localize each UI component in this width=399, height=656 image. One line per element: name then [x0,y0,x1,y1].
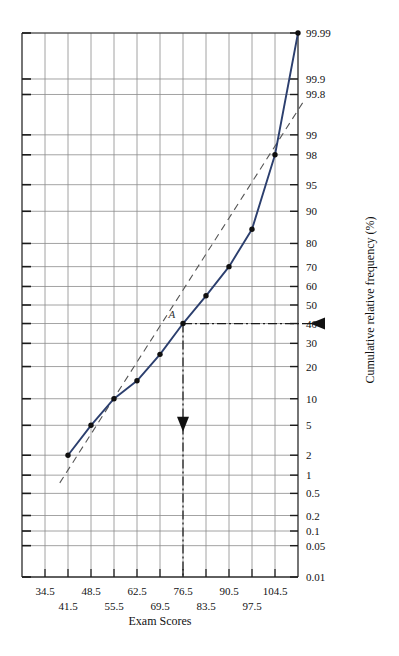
x-tick-label: 34.5 [35,585,55,597]
y-tick-label: 99.8 [306,88,326,100]
y-tick-label: 20 [306,361,318,373]
data-point-marker [203,293,208,298]
x-tick-label: 62.5 [127,585,147,597]
y-tick-label: 2 [306,449,312,461]
x-tick-label: 69.5 [150,600,170,612]
data-point-marker [157,352,162,357]
y-tick-label: 0.05 [306,540,326,552]
y-tick-label: 98 [306,149,318,161]
figure-background [0,0,399,656]
normal-probability-plot: 99.9999.999.8999895908070605040302010521… [0,0,399,656]
y-tick-label: 99.9 [306,73,326,85]
x-tick-label: 41.5 [58,600,78,612]
annotation-label-a: A [168,308,176,320]
y-tick-label: 0.5 [306,487,320,499]
data-point-marker [272,152,277,157]
x-tick-label: 48.5 [81,585,101,597]
y-tick-label: 60 [306,280,318,292]
x-tick-label: 83.5 [196,600,216,612]
data-point-marker [226,264,231,269]
data-point-marker [88,423,93,428]
y-tick-label: 0.2 [306,510,320,522]
y-tick-label: 0.01 [306,571,325,583]
x-tick-label: 97.5 [242,600,262,612]
y-tick-label: 80 [306,237,318,249]
data-point-marker [295,30,300,35]
y-tick-label: 50 [306,299,318,311]
y-tick-label: 10 [306,393,318,405]
data-point-marker [180,321,185,326]
y-tick-label: 90 [306,205,318,217]
y-tick-label: 99.99 [306,27,331,39]
data-point-marker [111,396,116,401]
y-tick-label: 95 [306,179,318,191]
y-axis-title: Cumulative relative frequency (%) [363,217,377,384]
y-tick-label: 0.1 [306,525,320,537]
x-tick-label: 90.5 [219,585,239,597]
y-tick-label: 5 [306,419,312,431]
y-tick-label: 30 [306,337,318,349]
x-tick-label: 76.5 [173,585,193,597]
x-tick-label: 104.5 [263,585,288,597]
annotation-labels: A [168,308,176,320]
data-point-marker [249,226,254,231]
x-tick-label: 55.5 [104,600,124,612]
data-point-marker [65,453,70,458]
probability-plot-figure: 99.9999.999.8999895908070605040302010521… [0,0,399,656]
data-point-marker [134,378,139,383]
y-tick-label: 99 [306,129,318,141]
y-tick-label: 70 [306,261,318,273]
y-tick-label: 1 [306,469,312,481]
x-axis-title: Exam Scores [129,614,192,628]
y-tick-label: 40 [306,318,318,330]
